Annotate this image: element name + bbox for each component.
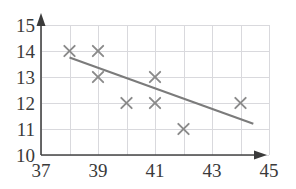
x-tick-label-39: 39 xyxy=(89,160,108,181)
y-tick-label-14: 14 xyxy=(16,41,36,62)
scatter-plot-figure: 101112131415 3739414345 xyxy=(0,0,296,189)
x-tick-label-43: 43 xyxy=(203,160,222,181)
y-axis-tick-labels: 101112131415 xyxy=(16,15,36,166)
trend-line xyxy=(70,58,254,124)
y-tick-label-12: 12 xyxy=(16,93,35,114)
x-tick-label-41: 41 xyxy=(146,160,165,181)
x-axis-tick-labels: 3739414345 xyxy=(32,160,279,181)
y-tick-label-11: 11 xyxy=(17,119,35,140)
chart-canvas: 101112131415 3739414345 xyxy=(0,0,296,189)
y-tick-label-15: 15 xyxy=(16,15,35,36)
x-axis-arrowhead xyxy=(254,151,267,160)
trend-line-segment xyxy=(70,58,254,124)
vertical-gridlines xyxy=(42,25,270,155)
y-tick-label-13: 13 xyxy=(16,67,35,88)
y-axis-arrowhead xyxy=(37,13,46,26)
x-tick-label-37: 37 xyxy=(32,160,51,181)
x-tick-label-45: 45 xyxy=(260,160,279,181)
